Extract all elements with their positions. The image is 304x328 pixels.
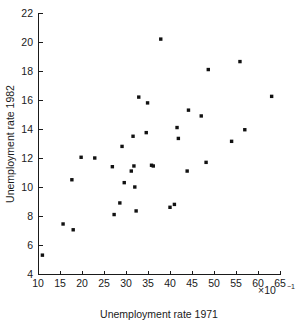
scatter-plot-figure: 46810121416182022 1015202530354045505560… [0, 0, 304, 328]
data-point [270, 95, 273, 98]
y-tick-label: 12 [21, 152, 33, 164]
x-tick-label: 35 [142, 277, 154, 289]
data-point [207, 68, 210, 71]
data-point [185, 169, 188, 172]
data-point [145, 131, 148, 134]
data-point-group [41, 37, 274, 256]
x-tick-label: 45 [186, 277, 198, 289]
x-tick-label: 30 [120, 277, 132, 289]
multiplier-base-label: ×10 [258, 284, 276, 296]
x-tick-label: 10 [32, 277, 44, 289]
y-tick-label: 10 [21, 181, 33, 193]
y-tick-label: 22 [21, 7, 33, 19]
data-point [72, 228, 75, 231]
data-point [238, 60, 241, 63]
data-point [70, 178, 73, 181]
x-tick-label: 55 [230, 277, 242, 289]
data-point [137, 95, 140, 98]
data-point [187, 108, 190, 111]
data-point [204, 161, 207, 164]
y-tick-label-group: 46810121416182022 [21, 7, 33, 280]
y-tick-label: 8 [27, 210, 33, 222]
x-tick-label: 20 [76, 277, 88, 289]
y-tick-label: 16 [21, 94, 33, 106]
data-point [173, 203, 176, 206]
y-axis-title: Unemployment rate 1982 [4, 85, 16, 203]
data-point [175, 126, 178, 129]
y-tick-label: 18 [21, 65, 33, 77]
data-point [131, 135, 134, 138]
x-tick-label: 50 [208, 277, 220, 289]
data-point [146, 101, 149, 104]
x-tick-mark-group [39, 271, 281, 275]
data-point [177, 137, 180, 140]
data-point [123, 181, 126, 184]
data-point [61, 222, 64, 225]
x-tick-label: 40 [164, 277, 176, 289]
x-tick-label: 15 [54, 277, 66, 289]
data-point [230, 140, 233, 143]
x-tick-label: 25 [98, 277, 110, 289]
data-point [159, 37, 162, 40]
data-point [93, 156, 96, 159]
y-tick-label: 14 [21, 123, 33, 135]
data-point [79, 156, 82, 159]
y-tick-label: 20 [21, 36, 33, 48]
data-point [152, 164, 155, 167]
x-axis-title: Unemployment rate 1971 [100, 308, 218, 320]
data-point [41, 253, 44, 256]
multiplier-exponent-label: −1 [287, 283, 295, 290]
x-tick-label: 65 [274, 277, 286, 289]
data-point [130, 169, 133, 172]
data-point [118, 201, 121, 204]
data-point [112, 213, 115, 216]
data-point [243, 128, 246, 131]
data-point [133, 185, 136, 188]
y-tick-label: 6 [27, 239, 33, 251]
data-point [134, 209, 137, 212]
data-point [120, 145, 123, 148]
x-tick-label-group: 101520253035404550556065 [32, 277, 286, 289]
y-tick-mark-group [39, 14, 43, 275]
data-point [132, 164, 135, 167]
data-point [168, 206, 171, 209]
plot-canvas: 46810121416182022 1015202530354045505560… [0, 0, 304, 328]
data-point [200, 114, 203, 117]
data-point [111, 165, 114, 168]
